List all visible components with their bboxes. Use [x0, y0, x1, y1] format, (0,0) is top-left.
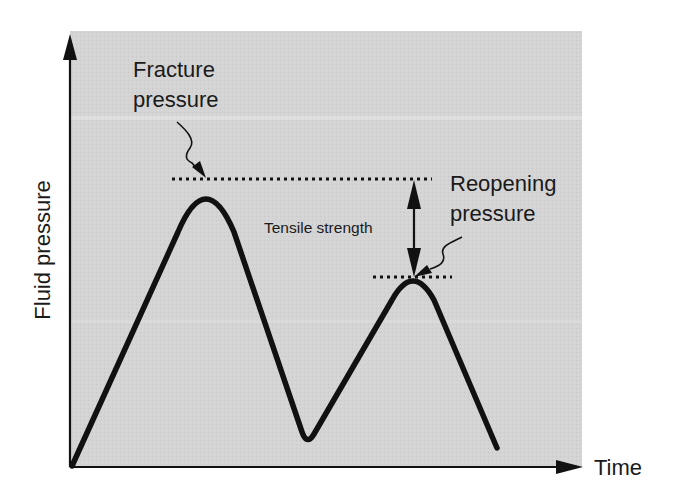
x-axis-label: Time [594, 455, 642, 480]
tensile-strength-label: Tensile strength [264, 219, 373, 236]
fracture-pressure-label-line1: Fracture [133, 57, 215, 82]
reopening-pressure-label-line2: pressure [450, 201, 536, 226]
diagram-canvas: Fluid pressure Time Tensile strength Fra… [0, 0, 677, 502]
reopening-pressure-label-line1: Reopening [450, 171, 556, 196]
fracture-pressure-label-line2: pressure [133, 87, 219, 112]
y-axis-label: Fluid pressure [30, 180, 55, 319]
